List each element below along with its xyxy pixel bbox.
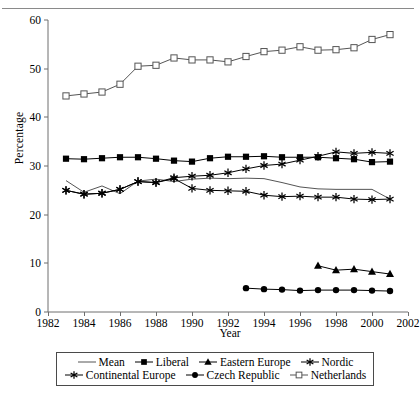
x-tick-mark <box>408 312 409 316</box>
x-tick-mark <box>228 312 229 316</box>
legend-swatch-continental-europe <box>64 369 84 381</box>
x-tick-label: 1994 <box>253 317 276 329</box>
legend-item-continental-europe[interactable]: Continental Europe <box>64 369 176 381</box>
y-tick-label: 60 <box>30 14 42 26</box>
legend-swatch-czech-republic <box>185 369 205 381</box>
y-tick-mark <box>44 263 48 264</box>
legend-item-czech-republic[interactable]: Czech Republic <box>185 369 280 381</box>
legend-row-1: MeanLiberalEastern EuropeNordic <box>77 356 354 368</box>
marker-filled-circle <box>297 287 303 293</box>
y-tick-mark <box>44 214 48 215</box>
marker-open-square <box>296 372 302 378</box>
legend-swatch-eastern-europe <box>198 356 218 368</box>
marker-filled-square <box>117 154 123 160</box>
marker-filled-square <box>369 159 375 165</box>
marker-filled-circle <box>369 287 375 293</box>
marker-filled-square <box>243 154 249 160</box>
marker-filled-triangle <box>204 358 211 365</box>
x-tick-label: 2002 <box>397 317 420 329</box>
y-tick-label: 50 <box>30 63 42 75</box>
x-tick-label: 1982 <box>37 317 60 329</box>
legend-item-eastern-europe[interactable]: Eastern Europe <box>198 356 291 368</box>
y-tick-mark <box>44 68 48 69</box>
x-tick-mark <box>300 312 301 316</box>
legend-item-liberal[interactable]: Liberal <box>134 356 189 368</box>
legend-item-label: Nordic <box>322 356 354 368</box>
y-tick-label: 30 <box>30 160 42 172</box>
marker-filled-circle <box>243 285 249 291</box>
marker-filled-circle <box>333 287 339 293</box>
legend-item-netherlands[interactable]: Netherlands <box>289 369 367 381</box>
series-netherlands <box>63 32 393 100</box>
x-tick-label: 1996 <box>289 317 312 329</box>
y-tick-mark <box>44 117 48 118</box>
marker-open-square <box>135 63 141 69</box>
x-tick-mark <box>192 312 193 316</box>
x-tick-label: 1998 <box>325 317 348 329</box>
legend-item-label: Mean <box>99 356 125 368</box>
marker-filled-circle <box>192 372 198 378</box>
legend-swatch-netherlands <box>289 369 309 381</box>
marker-open-square <box>189 57 195 63</box>
x-tick-label: 2000 <box>361 317 384 329</box>
chart-svg <box>48 20 408 312</box>
top-divider-rule <box>2 8 414 9</box>
series-czech-republic <box>243 285 393 294</box>
y-tick-label: 20 <box>30 209 42 221</box>
marker-filled-circle <box>315 287 321 293</box>
x-tick-mark <box>372 312 373 316</box>
marker-filled-square <box>189 159 195 165</box>
legend-swatch-mean <box>77 356 97 368</box>
x-tick-label: 1986 <box>109 317 132 329</box>
marker-filled-square <box>225 154 231 160</box>
marker-filled-square <box>99 155 105 161</box>
marker-open-square <box>207 57 213 63</box>
legend-item-label: Liberal <box>156 356 189 368</box>
marker-open-square <box>81 91 87 97</box>
marker-open-square <box>225 59 231 65</box>
x-tick-label: 1984 <box>73 317 96 329</box>
x-tick-mark <box>264 312 265 316</box>
x-tick-label: 1992 <box>217 317 240 329</box>
x-tick-mark <box>336 312 337 316</box>
marker-open-square <box>261 49 267 55</box>
y-tick-mark <box>44 20 48 21</box>
y-axis-label: Percentage <box>13 93 25 183</box>
marker-filled-square <box>387 159 393 165</box>
marker-filled-circle <box>279 286 285 292</box>
marker-filled-circle <box>351 287 357 293</box>
marker-filled-square <box>141 359 147 365</box>
x-tick-mark <box>120 312 121 316</box>
y-tick-mark <box>44 166 48 167</box>
marker-filled-square <box>279 154 285 160</box>
legend-item-mean[interactable]: Mean <box>77 356 125 368</box>
marker-filled-square <box>63 156 69 162</box>
series-liberal <box>63 153 393 165</box>
y-tick-label: 10 <box>30 257 42 269</box>
x-tick-mark <box>48 312 49 316</box>
legend-swatch-liberal <box>134 356 154 368</box>
x-tick-label: 1990 <box>181 317 204 329</box>
x-tick-mark <box>84 312 85 316</box>
marker-open-square <box>351 45 357 51</box>
series-eastern-europe <box>314 262 394 277</box>
marker-filled-square <box>207 155 213 161</box>
y-tick-label: 40 <box>30 111 42 123</box>
marker-filled-circle <box>261 286 267 292</box>
marker-open-square <box>243 53 249 59</box>
x-tick-mark <box>156 312 157 316</box>
chart-legend: MeanLiberalEastern EuropeNordic Continen… <box>56 352 374 386</box>
marker-filled-square <box>171 158 177 164</box>
x-tick-label: 1988 <box>145 317 168 329</box>
marker-filled-square <box>153 156 159 162</box>
legend-row-2: Continental EuropeCzech RepublicNetherla… <box>64 369 366 381</box>
marker-open-square <box>171 55 177 61</box>
legend-item-nordic[interactable]: Nordic <box>300 356 354 368</box>
plot-area: 0102030405060198219841986198819901992199… <box>48 20 408 312</box>
legend-swatch-nordic <box>300 356 320 368</box>
marker-open-square <box>153 62 159 68</box>
marker-open-square <box>333 47 339 53</box>
marker-open-square <box>279 47 285 53</box>
marker-filled-triangle <box>314 262 322 269</box>
